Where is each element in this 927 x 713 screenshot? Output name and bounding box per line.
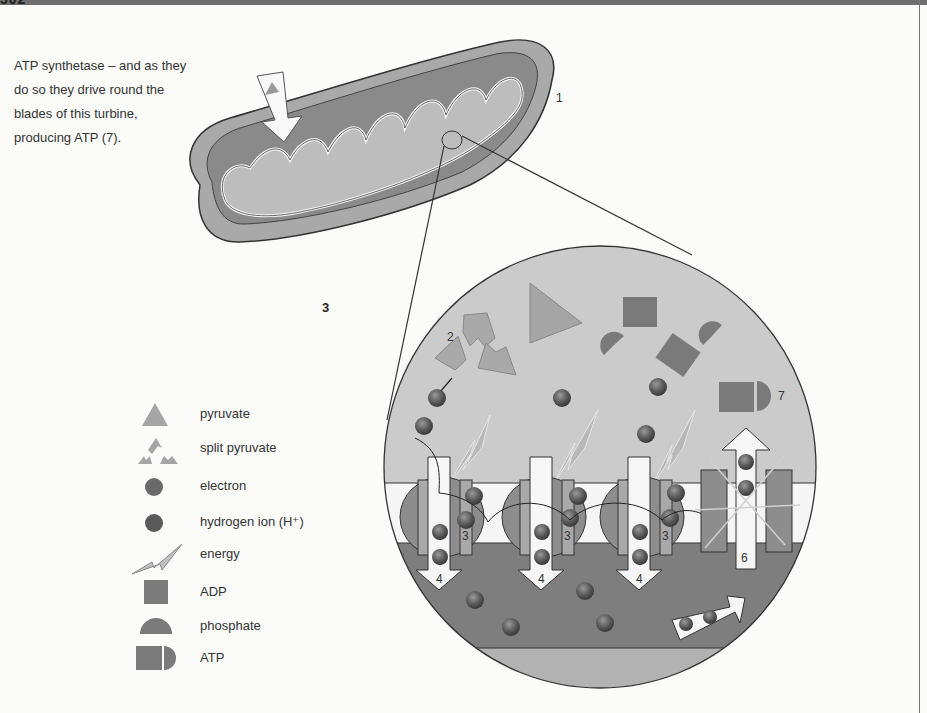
label-3c: 3 <box>662 529 669 543</box>
label-3b: 3 <box>564 529 571 543</box>
pyruvate-triangle-icon <box>110 400 190 430</box>
energy-bolt-icon <box>110 540 190 576</box>
atp-icon <box>110 644 190 674</box>
adp-square-icon <box>110 578 190 608</box>
phosphate-semicircle-icon <box>110 612 190 642</box>
label-3a: 3 <box>462 529 469 543</box>
hydrogen-ion-icon <box>110 508 190 538</box>
label-6: 6 <box>741 551 748 565</box>
mitochondrion <box>190 40 554 242</box>
label-4b: 4 <box>538 572 545 586</box>
split-pyruvate-icon <box>110 434 190 470</box>
legend-item-energy: energy <box>110 540 350 570</box>
legend-item-phosphate: phosphate <box>110 612 350 642</box>
electron-icon <box>110 472 190 502</box>
legend-item-pyruvate: pyruvate <box>110 400 350 430</box>
label-1: 1 <box>556 91 563 105</box>
legend-item-split-pyruvate: split pyruvate <box>110 434 350 464</box>
legend-item-electron: electron <box>110 472 350 502</box>
label-4a: 4 <box>436 572 443 586</box>
legend-item-hydrogen-ion: hydrogen ion (H⁺) <box>110 508 350 538</box>
label-4c: 4 <box>636 572 643 586</box>
legend-item-atp: ATP <box>110 644 350 674</box>
label-7: 7 <box>778 389 785 403</box>
label-2: 2 <box>447 330 454 344</box>
label-3-standalone: 3 <box>322 300 329 315</box>
legend-item-adp: ADP <box>110 578 350 608</box>
magnified-membrane <box>380 240 820 693</box>
zoom-line-right <box>462 136 692 255</box>
